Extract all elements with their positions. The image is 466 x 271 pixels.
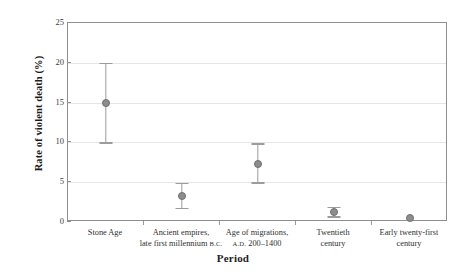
y-axis-tick-label: 15 [42,97,64,107]
error-bar-cap-upper [100,63,113,64]
y-axis-tick-mark [67,141,71,142]
error-bar-cap-upper [252,143,265,144]
y-axis-tick-mark [67,62,71,63]
marker-dot [102,99,110,107]
x-axis-title: Period [0,252,466,264]
marker-dot [178,192,186,200]
y-axis-tick-label: 5 [42,176,64,186]
x-axis-separator-tick [295,221,296,225]
error-bar-cap-lower [176,208,189,209]
error-bar-cap-lower [252,182,265,183]
marker-dot [254,160,262,168]
x-axis-separator-tick [143,221,144,225]
y-axis-tick-mark [67,181,71,182]
error-bar-cap-lower [100,142,113,143]
gridline [68,103,446,104]
marker-dot [330,208,338,216]
y-axis-tick-label: 20 [42,57,64,67]
y-axis-tick-mark [67,22,71,23]
x-axis-separator-tick [371,221,372,225]
gridline [68,63,446,64]
x-axis-tick-label: Early twenty-firstcentury [361,227,457,249]
y-axis-tick-mark [67,102,71,103]
x-axis-separator-tick [219,221,220,225]
y-axis-tick-label: 0 [42,216,64,226]
error-bar-cap-lower [328,216,341,217]
plot-area [67,22,447,221]
y-axis-tick-labels: 0510152025 [38,22,64,221]
y-axis-tick-mark [67,221,71,222]
violent-death-rate-chart: Rate of violent death (%) 0510152025 Sto… [0,0,466,271]
y-axis-tick-label: 10 [42,136,64,146]
y-axis-tick-label: 25 [42,17,64,27]
error-bar-cap-upper [176,183,189,184]
marker-dot [406,214,414,222]
